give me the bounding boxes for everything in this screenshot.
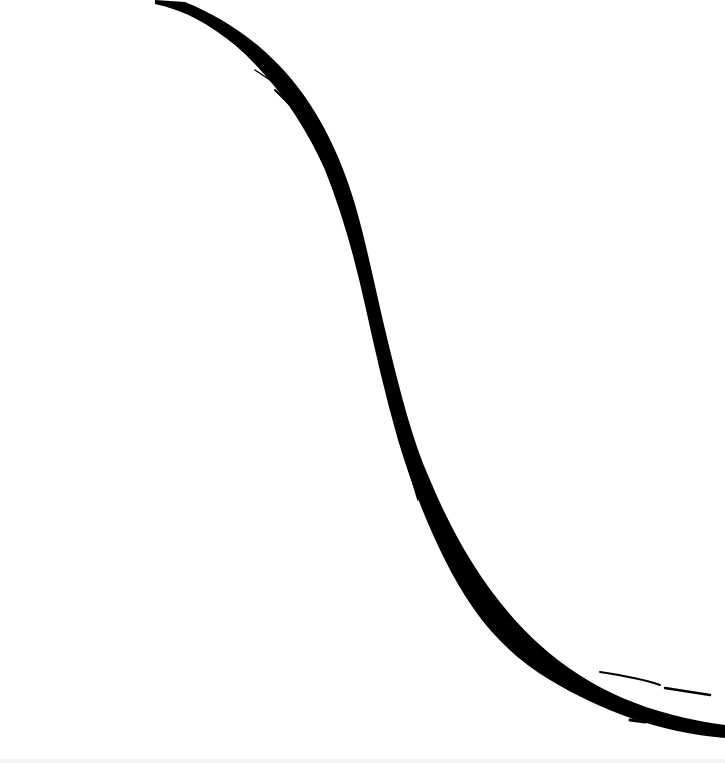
- bottom-edge-shadow: [0, 759, 725, 763]
- brush-stroke-icon: [0, 0, 725, 763]
- artwork-canvas: [0, 0, 725, 763]
